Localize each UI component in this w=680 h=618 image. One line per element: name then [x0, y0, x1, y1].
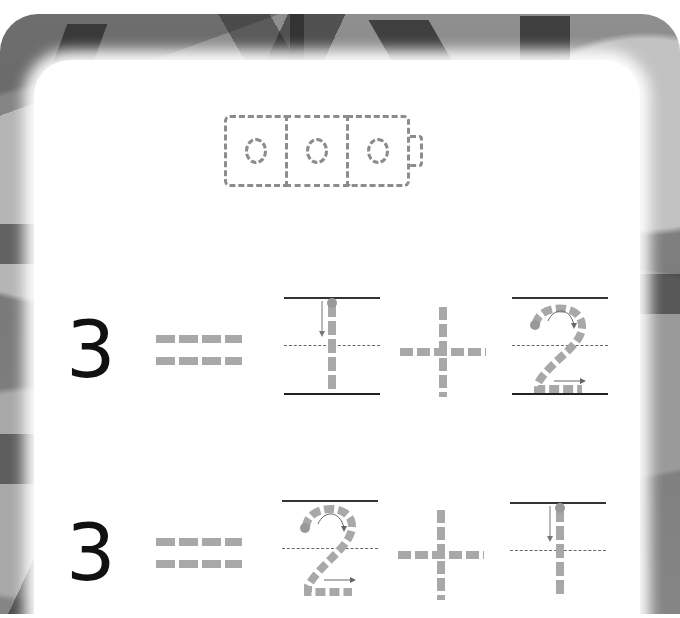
- trace-one-icon: [284, 297, 380, 395]
- connecting-cube-3: [346, 115, 410, 187]
- cube-stud-icon: [306, 138, 328, 164]
- traceable-plus-sign[interactable]: [398, 510, 484, 600]
- equation-row-2: 3: [66, 498, 626, 608]
- total-number: 3: [66, 498, 116, 608]
- connecting-cube-1: [224, 115, 288, 187]
- connecting-cube-2: [285, 115, 349, 187]
- cube-train: [224, 115, 423, 187]
- cube-stud-icon: [367, 138, 389, 164]
- traceable-equals-sign[interactable]: [156, 538, 242, 582]
- trace-one-icon: [510, 502, 606, 600]
- cube-connector-knob-icon: [410, 135, 423, 167]
- equation-row-1: 3: [66, 295, 626, 405]
- trace-digit-1[interactable]: [284, 297, 380, 395]
- trace-two-icon: [512, 297, 608, 395]
- trace-digit-2[interactable]: [512, 297, 608, 395]
- traceable-equals-sign[interactable]: [156, 335, 242, 379]
- traceable-plus-sign[interactable]: [400, 307, 486, 397]
- cube-stud-icon: [245, 138, 267, 164]
- trace-digit-2[interactable]: [282, 500, 378, 598]
- trace-two-icon: [282, 500, 378, 598]
- total-number: 3: [66, 295, 116, 405]
- trace-digit-1[interactable]: [510, 502, 606, 600]
